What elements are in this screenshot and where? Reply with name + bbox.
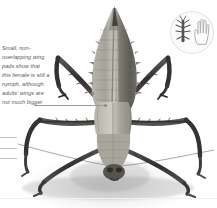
figure-caption: Small, non-overlapping wing pads show th…	[2, 44, 50, 107]
insect-head	[103, 164, 125, 180]
insect-eye-right	[116, 168, 122, 173]
leader-line-stub-2	[0, 148, 17, 149]
size-comparison-badge	[170, 11, 214, 54]
caption-leader-line	[34, 105, 106, 106]
leader-line-stub-1	[0, 137, 17, 138]
page-rule-bottom	[0, 198, 217, 199]
badge-hand-icon	[195, 19, 209, 44]
leader-line-stub-3	[0, 158, 17, 159]
figure-page: Small, non-overlapping wing pads show th…	[0, 0, 217, 208]
insect-eye-left	[107, 168, 113, 173]
badge-insect-silhouette-icon	[176, 16, 190, 42]
